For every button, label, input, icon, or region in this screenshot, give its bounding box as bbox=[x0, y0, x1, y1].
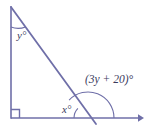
geometry-figure: y° x° (3y + 20)° bbox=[0, 0, 146, 127]
angle-label-exterior: (3y + 20)° bbox=[85, 74, 133, 86]
right-angle-marker-icon bbox=[11, 110, 20, 119]
angle-arc-x bbox=[74, 108, 78, 118]
angle-label-y: y° bbox=[17, 30, 26, 41]
angle-label-x: x° bbox=[62, 104, 71, 115]
transversal-line bbox=[11, 7, 96, 124]
geometry-diagram-svg bbox=[0, 0, 146, 127]
arrowhead-icon bbox=[138, 114, 144, 122]
